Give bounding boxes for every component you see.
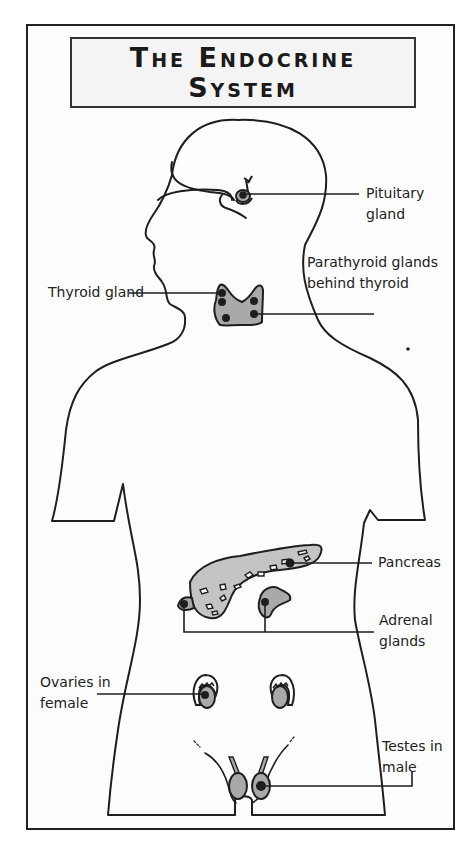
label-pituitary: Pituitary gland bbox=[366, 183, 424, 225]
testes bbox=[229, 757, 270, 799]
pituitary-gland bbox=[236, 176, 252, 204]
label-parathyroid-line2: behind thyroid bbox=[307, 273, 438, 294]
label-testes: Testes in male bbox=[382, 736, 443, 778]
label-thyroid-line1: Thyroid gland bbox=[48, 282, 144, 303]
brain-line bbox=[171, 162, 234, 200]
label-ovaries: Ovaries in female bbox=[40, 672, 111, 714]
ovaries bbox=[194, 675, 294, 708]
endocrine-body-diagram bbox=[0, 0, 474, 857]
label-testes-line1: Testes in bbox=[382, 736, 443, 757]
label-ovaries-line1: Ovaries in bbox=[40, 672, 111, 693]
pancreas bbox=[190, 545, 322, 618]
label-ovaries-line2: female bbox=[40, 693, 111, 714]
label-testes-line2: male bbox=[382, 757, 443, 778]
label-adrenal: Adrenal glands bbox=[379, 610, 433, 652]
label-pituitary-line2: gland bbox=[366, 204, 424, 225]
label-pituitary-line1: Pituitary bbox=[366, 183, 424, 204]
label-adrenal-line1: Adrenal bbox=[379, 610, 433, 631]
label-adrenal-line2: glands bbox=[379, 631, 433, 652]
label-pancreas: Pancreas bbox=[378, 552, 441, 573]
label-parathyroid-line1: Parathyroid glands bbox=[307, 252, 438, 273]
stray-dot bbox=[406, 347, 410, 351]
label-pancreas-line1: Pancreas bbox=[378, 552, 441, 573]
thyroid-gland bbox=[214, 285, 263, 326]
label-thyroid: Thyroid gland bbox=[48, 282, 144, 303]
label-parathyroid: Parathyroid glands behind thyroid bbox=[307, 252, 438, 294]
